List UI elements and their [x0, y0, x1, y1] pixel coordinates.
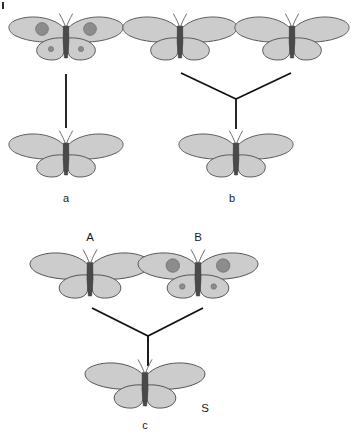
panel-c-offspring-s-label: S: [201, 402, 209, 414]
panel-c-label: c: [142, 419, 148, 431]
panel-a-label: a: [63, 192, 70, 204]
panel-c-parent-a-label: A: [86, 231, 94, 243]
butterfly-inheritance-diagram: a b A B: [0, 0, 360, 440]
figure-root: a b A B: [0, 0, 360, 440]
panel-c-parent-b-label: B: [194, 231, 202, 243]
panel-b-label: b: [229, 192, 235, 204]
corner-artifact: [2, 2, 4, 9]
